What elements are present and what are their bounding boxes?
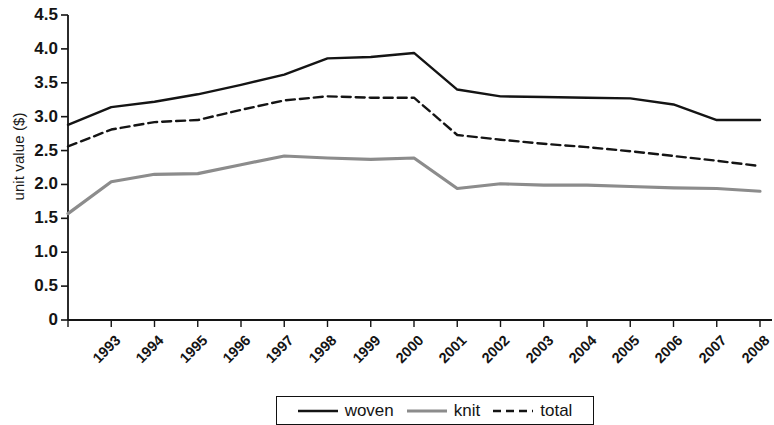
- legend-label-knit: knit: [454, 402, 480, 419]
- y-tick-label: 0: [14, 311, 58, 328]
- y-tick-label: 4.5: [14, 6, 58, 23]
- legend-item-knit: knit: [407, 402, 480, 419]
- series-line-total: [68, 96, 760, 166]
- legend-swatch-knit-icon: [407, 405, 447, 417]
- legend-swatch-total-icon: [493, 405, 533, 417]
- y-tick-label: 0.5: [14, 277, 58, 294]
- series-line-woven: [68, 53, 760, 125]
- y-axis-tick-labels: 4.54.03.53.02.52.01.51.00.50: [10, 0, 58, 340]
- x-axis-ticks: [68, 320, 760, 327]
- y-tick-label: 1.5: [14, 209, 58, 226]
- legend-item-total: total: [493, 402, 572, 419]
- legend-label-woven: woven: [345, 402, 394, 419]
- data-series-lines: [68, 53, 760, 214]
- chart-legend: woven knit total: [276, 396, 594, 425]
- y-tick-label: 2.0: [14, 175, 58, 192]
- y-tick-label: 3.0: [14, 108, 58, 125]
- legend-item-woven: woven: [298, 402, 394, 419]
- line-chart: unit value ($) 4.54.03.53.02.52.01.51.00…: [0, 0, 774, 425]
- y-tick-label: 1.0: [14, 243, 58, 260]
- axis-lines: [68, 15, 772, 320]
- y-tick-label: 3.5: [14, 74, 58, 91]
- y-tick-label: 2.5: [14, 142, 58, 159]
- y-axis-ticks: [61, 15, 68, 320]
- legend-swatch-woven-icon: [298, 405, 338, 417]
- series-line-knit: [68, 156, 760, 214]
- legend-label-total: total: [540, 402, 572, 419]
- y-tick-label: 4.0: [14, 40, 58, 57]
